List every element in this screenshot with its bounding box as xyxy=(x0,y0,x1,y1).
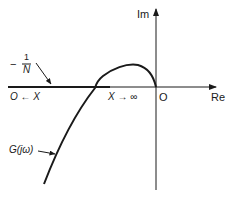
g-jw-curve xyxy=(44,65,156,184)
neg-inverse-n-pointer xyxy=(36,63,51,84)
nyquist-diagram: Im Re O − 1 N O ← X X → ∞ G(jω) xyxy=(0,0,241,197)
origin-label: O xyxy=(159,92,168,103)
left-limit-label: O ← X xyxy=(10,92,40,102)
real-axis-label: Re xyxy=(211,92,225,103)
g-jw-pointer xyxy=(38,151,55,154)
neg-inverse-n-sign: − xyxy=(10,59,16,70)
imag-axis-label: Im xyxy=(137,9,149,20)
neg-inverse-n-denominator: N xyxy=(23,65,30,75)
right-limit-label: X → ∞ xyxy=(108,92,137,102)
neg-inverse-n-numerator: 1 xyxy=(24,53,29,62)
g-jw-label: G(jω) xyxy=(9,145,33,155)
